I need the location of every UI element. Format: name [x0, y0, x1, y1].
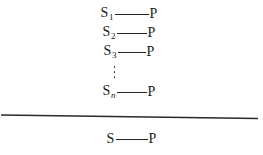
substrate-subscript: n [111, 90, 116, 100]
pair-row: S3 P [0, 43, 263, 61]
horizontal-divider [0, 108, 263, 124]
summary-bond-line [116, 139, 148, 140]
substrate-subscript: 3 [112, 50, 117, 60]
pair-row: S1 P [0, 5, 263, 23]
substrate-product-series: S1 P S2 P S3 P Sn P [0, 0, 263, 101]
substrate-subscript: 1 [109, 12, 114, 22]
substrate-label: S2 [94, 25, 116, 41]
product-label: P [148, 26, 170, 40]
bond-line [117, 92, 147, 93]
pair-row: Sn P [0, 83, 263, 101]
pair-row: S2 P [0, 24, 263, 42]
vertical-ellipsis [0, 61, 263, 83]
product-label: P [147, 45, 169, 59]
substrate-label: S3 [95, 44, 117, 60]
summary-product-label: P [149, 132, 171, 146]
product-label: P [150, 7, 172, 21]
substrate-label: S1 [92, 6, 114, 22]
product-label: P [148, 85, 170, 99]
reaction-diagram: S1 P S2 P S3 P Sn P [0, 0, 263, 155]
substrate-subscript: 2 [111, 31, 116, 41]
bond-line [118, 52, 146, 53]
ellipsis-dot [114, 76, 116, 78]
ellipsis-dot [114, 66, 116, 68]
substrate-label: Sn [94, 84, 116, 100]
ellipsis-dots [114, 66, 116, 78]
ellipsis-dot [114, 71, 116, 73]
summary-substrate-label: S [93, 132, 115, 146]
bond-line [115, 14, 149, 15]
bond-line [117, 33, 147, 34]
summary-pair-row: S P [0, 130, 263, 148]
